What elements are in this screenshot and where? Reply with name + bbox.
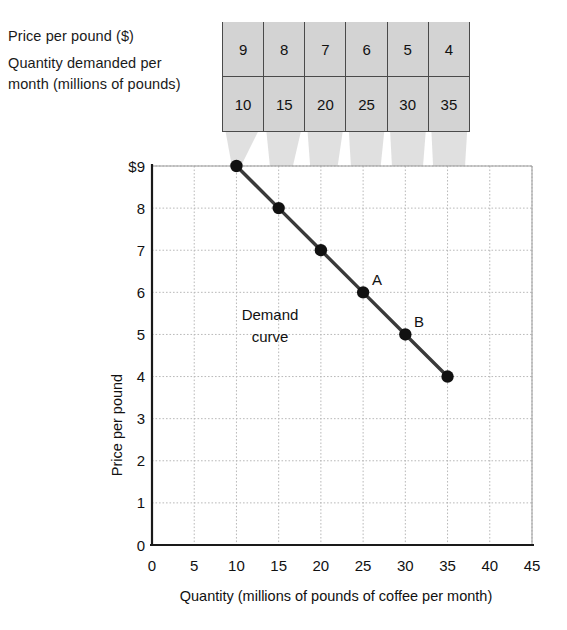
data-point-dot [357, 286, 369, 298]
demand-curve-label-line1: Demand [242, 306, 299, 323]
data-point-dot [230, 160, 242, 172]
x-tick-label: 35 [439, 557, 456, 574]
x-tick-label: 45 [524, 557, 541, 574]
data-point-dot [399, 328, 411, 340]
y-tick-label: 5 [137, 326, 145, 343]
y-tick-label: 7 [137, 242, 145, 259]
x-tick-label: 5 [190, 557, 198, 574]
x-tick-label: 10 [228, 557, 245, 574]
y-axis-title: Price per pound [109, 374, 125, 476]
data-point-dot [441, 370, 453, 382]
point-a-label: A [372, 271, 382, 288]
y-tick-label: 1 [137, 494, 145, 511]
x-tick-label: 0 [148, 557, 156, 574]
y-tick-label: 6 [137, 284, 145, 301]
x-tick-label: 40 [481, 557, 498, 574]
x-tick-label: 25 [355, 557, 372, 574]
y-axis-ticks: 012345678$9 [128, 158, 145, 554]
plot-area [152, 166, 532, 545]
y-tick-label: 0 [137, 537, 145, 554]
y-tick-label: 4 [137, 368, 145, 385]
x-tick-label: 20 [313, 557, 330, 574]
demand-curve-label-line2: curve [252, 328, 289, 345]
x-tick-label: 15 [270, 557, 287, 574]
demand-curve-chart: 012345678$9 051015202530354045 A B Deman… [0, 0, 567, 630]
data-point-dot [272, 202, 284, 214]
data-point-dot [315, 244, 327, 256]
x-axis-ticks: 051015202530354045 [148, 557, 541, 574]
x-axis-title: Quantity (millions of pounds of coffee p… [180, 588, 492, 604]
y-tick-label: 3 [137, 410, 145, 427]
x-tick-label: 30 [397, 557, 414, 574]
y-tick-label: 2 [137, 452, 145, 469]
y-tick-label: $9 [128, 158, 145, 175]
point-b-label: B [414, 313, 424, 330]
y-tick-label: 8 [137, 200, 145, 217]
